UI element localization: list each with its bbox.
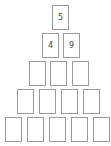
pyramid-cell-r3-c3[interactable]: [72, 61, 89, 86]
pyramid-cell-r5-c4[interactable]: [71, 117, 88, 142]
pyramid-cell-r2-c2[interactable]: 9: [63, 33, 80, 58]
pyramid-cell-r4-c3[interactable]: [61, 89, 78, 114]
pyramid-cell-r5-c3[interactable]: [49, 117, 66, 142]
pyramid-cell-r5-c2[interactable]: [27, 117, 44, 142]
pyramid-cell-r3-c1[interactable]: [29, 61, 46, 86]
number-pyramid: 5 4 9: [0, 0, 111, 146]
pyramid-cell-r2-c1[interactable]: 4: [42, 33, 59, 58]
pyramid-cell-r5-c5[interactable]: [93, 117, 110, 142]
pyramid-cell-r4-c4[interactable]: [83, 89, 100, 114]
pyramid-cell-r4-c2[interactable]: [39, 89, 56, 114]
pyramid-cell-r3-c2[interactable]: [50, 61, 67, 86]
pyramid-cell-r1-c1[interactable]: 5: [52, 5, 69, 30]
pyramid-cell-r5-c1[interactable]: [5, 117, 22, 142]
pyramid-cell-r4-c1[interactable]: [17, 89, 34, 114]
